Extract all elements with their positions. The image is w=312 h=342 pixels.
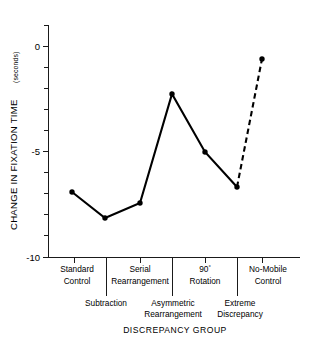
chart-background: [0, 0, 312, 342]
data-point-standard-control: [69, 189, 74, 194]
data-point-90-rotation: [202, 149, 207, 154]
cat-no-mobile-control-line2: Control: [255, 276, 282, 286]
cat-extreme-line2: Discrepancy: [217, 309, 264, 319]
fixation-time-line-chart: CHANGE IN FIXATION TIME (seconds) 0 -5 -…: [0, 0, 312, 342]
data-point-asymmetric-rearrangement: [169, 91, 174, 96]
data-point-subtraction: [102, 215, 107, 220]
y-axis-label: CHANGE IN FIXATION TIME: [8, 99, 19, 230]
cat-extreme-line1: Extreme: [225, 298, 256, 308]
y-tick-label-0: 0: [35, 41, 40, 52]
cat-serial-rearrangement-line1: Serial: [129, 264, 150, 274]
cat-asymmetric-line2: Rearrangement: [144, 309, 202, 319]
cat-standard-control-line2: Control: [64, 276, 91, 286]
cat-90-rotation-line2: Rotation: [190, 276, 221, 286]
cat-standard-control-line1: Standard: [60, 264, 94, 274]
y-tick-label-minus10: -10: [26, 252, 40, 263]
cat-asymmetric-line1: Asymmetric: [151, 298, 194, 308]
y-axis-units-label: (seconds): [12, 51, 20, 83]
cat-subtraction-line1: Subtraction: [85, 298, 127, 308]
cat-serial-rearrangement-line2: Rearrangement: [111, 276, 169, 286]
y-tick-label-minus5: -5: [32, 146, 40, 157]
cat-no-mobile-control-line1: No-Mobile: [249, 264, 287, 274]
data-point-serial-rearrangement: [137, 200, 142, 205]
data-point-no-mobile-control: [259, 56, 264, 61]
x-axis-title: DISCREPANCY GROUP: [123, 325, 227, 335]
data-point-extreme-discrepancy: [234, 184, 239, 189]
